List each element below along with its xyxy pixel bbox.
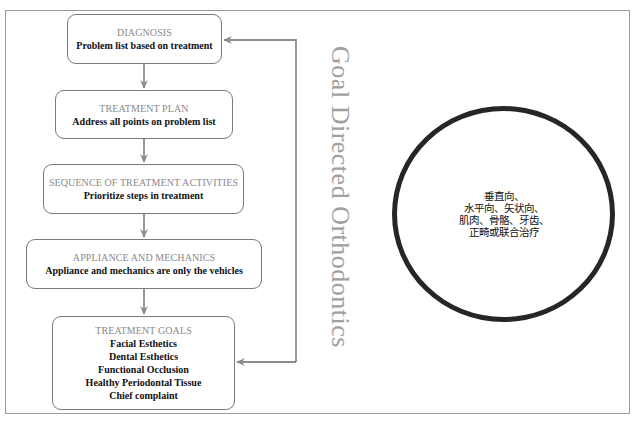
box-text: Address all points on problem list: [72, 115, 215, 128]
box-appliance: APPLIANCE AND MECHANICS Appliance and me…: [26, 239, 262, 289]
goal-item: Chief complaint: [109, 389, 178, 402]
goal-item: Facial Esthetics: [110, 337, 177, 350]
goal-item: Dental Esthetics: [109, 350, 178, 363]
box-diagnosis: DIAGNOSIS Problem list based on treatmen…: [67, 14, 222, 64]
goal-item: Functional Occlusion: [98, 363, 189, 376]
box-title: DIAGNOSIS: [117, 26, 172, 39]
box-text: Problem list based on treatment: [76, 39, 212, 52]
box-title: TREATMENT GOALS: [95, 324, 192, 337]
goal-item: Healthy Periodontal Tissue: [86, 376, 202, 389]
box-title: TREATMENT PLAN: [99, 102, 188, 115]
box-text: Prioritize steps in treatment: [84, 189, 204, 202]
circle-text: 正畸或联合治疗: [469, 226, 539, 238]
circle-text: 水平向、矢状向、: [464, 202, 544, 214]
box-treatment-goals: TREATMENT GOALS Facial Esthetics Dental …: [52, 316, 235, 410]
box-title: SEQUENCE OF TREATMENT ACTIVITIES: [49, 176, 238, 189]
circle-text: 肌肉、骨骼、牙齿、: [459, 214, 549, 226]
diagram-title: Goal Directed Orthodontics: [325, 46, 355, 348]
circle-text: 垂直向、: [484, 190, 524, 202]
box-treatment-plan: TREATMENT PLAN Address all points on pro…: [55, 90, 233, 139]
box-sequence: SEQUENCE OF TREATMENT ACTIVITIES Priorit…: [43, 164, 244, 214]
box-text: Appliance and mechanics are only the veh…: [45, 264, 243, 277]
box-title: APPLIANCE AND MECHANICS: [73, 251, 215, 264]
treatment-dimensions-circle: 垂直向、 水平向、矢状向、 肌肉、骨骼、牙齿、 正畸或联合治疗: [392, 106, 615, 322]
